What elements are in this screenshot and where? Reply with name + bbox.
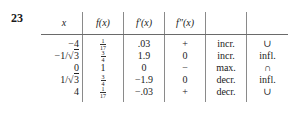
cell-concavity: infl. [247, 74, 288, 86]
square-root: √3 [68, 50, 79, 62]
cell-x: 4 [42, 86, 79, 98]
cell-concavity: ∩ [247, 62, 288, 74]
cell-f-double-prime: + [166, 86, 204, 98]
fraction: 117 [100, 86, 106, 99]
cell-monotonicity: max. [206, 62, 246, 74]
cell-f-double-prime: 0 [166, 74, 204, 86]
cell-monotonicity: incr. [206, 50, 246, 62]
cell-f: 34 [84, 74, 122, 86]
cell-f-double-prime: − [166, 62, 204, 74]
cell-x: −1/√3 [42, 50, 79, 62]
cell-f-prime: .03 [124, 38, 164, 50]
cell-f: 117 [84, 38, 122, 50]
cell-concavity: ∪ [247, 86, 288, 98]
header-x: x [52, 17, 76, 29]
header-f: f(x) [84, 17, 122, 29]
column-divider [82, 12, 83, 102]
cell-f-double-prime: + [166, 38, 204, 50]
cell-f: 117 [84, 86, 122, 98]
header-rule [41, 34, 288, 35]
cell-f-prime: −.03 [124, 86, 164, 98]
column-divider [164, 12, 165, 102]
cell-concavity: ∪ [247, 38, 288, 50]
header-f-prime: f′(x) [124, 17, 164, 29]
function-analysis-table: x f(x) f′(x) f″(x) −4117.03+incr.∪−1/√33… [0, 0, 288, 114]
cell-monotonicity: decr. [206, 86, 246, 98]
cell-f: 34 [84, 50, 122, 62]
square-root: √3 [68, 74, 79, 86]
cell-f-double-prime: 0 [166, 50, 204, 62]
cell-f: 1 [84, 62, 122, 74]
cell-monotonicity: decr. [206, 74, 246, 86]
header-concavity [247, 17, 288, 29]
cell-f-prime: −1.9 [124, 74, 164, 86]
cell-f-prime: 1.9 [124, 50, 164, 62]
cell-x: 1/√3 [42, 74, 79, 86]
header-f-double-prime: f″(x) [166, 17, 204, 29]
header-monotonicity [206, 17, 246, 29]
cell-monotonicity: incr. [206, 38, 246, 50]
cell-concavity: infl. [247, 50, 288, 62]
cell-f-prime: 0 [124, 62, 164, 74]
